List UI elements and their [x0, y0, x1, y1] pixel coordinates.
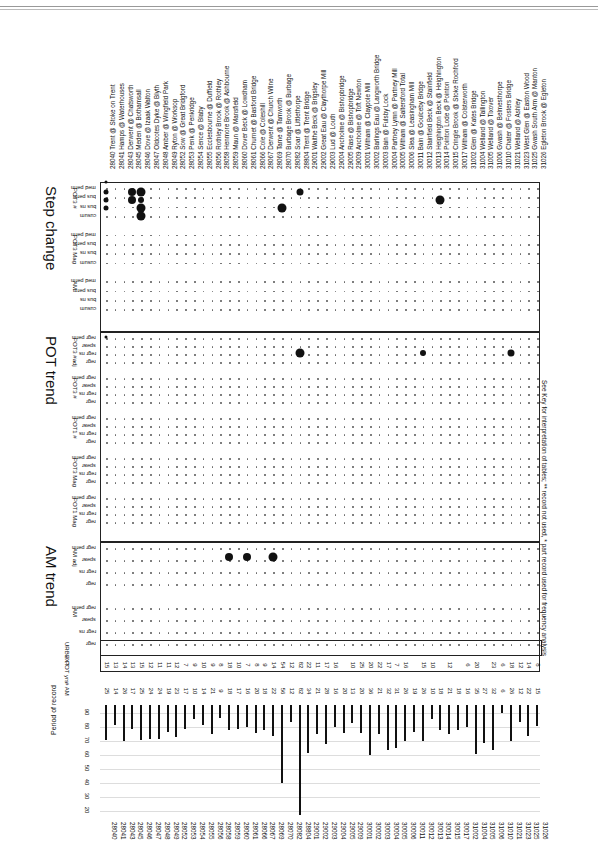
grid-dot	[317, 197, 319, 199]
grid-dot	[168, 386, 170, 388]
grid-dot	[388, 584, 390, 586]
station-label: 28067 Derwent @ Church Wilne	[260, 60, 269, 178]
grid-dot	[212, 253, 214, 255]
count-value: 20	[368, 661, 374, 670]
grid-dot	[361, 442, 363, 444]
grid-dot	[352, 244, 354, 246]
row-label: regr	[86, 519, 96, 525]
station-id: 29003	[331, 822, 338, 840]
grid-dot	[520, 522, 522, 524]
grid-dot	[537, 620, 539, 622]
grid-dot	[476, 466, 478, 468]
grid-dot	[352, 378, 354, 380]
grid-dot	[352, 354, 354, 356]
gridline	[100, 783, 540, 784]
grid-dot	[238, 548, 240, 550]
row-label: spear	[82, 557, 96, 563]
grid-dot	[141, 442, 143, 444]
grid-dot	[317, 346, 319, 348]
grid-dot	[238, 466, 240, 468]
grid-dot	[150, 620, 152, 622]
grid-dot	[185, 548, 187, 550]
grid-dot	[528, 300, 530, 302]
grid-dot	[458, 458, 460, 460]
grid-dot	[484, 338, 486, 340]
grid-dot	[414, 197, 416, 199]
grid-dot	[537, 291, 539, 293]
grid-dot	[141, 584, 143, 586]
grid-dot	[194, 300, 196, 302]
count-value: 6	[500, 661, 506, 670]
grid-dot	[168, 522, 170, 524]
grid-dot	[229, 458, 231, 460]
record-bar	[395, 705, 397, 748]
grid-dot	[326, 482, 328, 484]
grid-dot	[414, 474, 416, 476]
grid-dot	[493, 522, 495, 524]
grid-dot	[106, 216, 108, 218]
grid-dot	[273, 418, 275, 420]
grid-dot	[352, 620, 354, 622]
grid-dot	[449, 346, 451, 348]
grid-dot	[326, 346, 328, 348]
grid-dot	[194, 281, 196, 283]
grid-dot	[176, 235, 178, 237]
grid-dot	[273, 354, 275, 356]
grid-dot	[440, 216, 442, 218]
grid-dot	[220, 244, 222, 246]
grid-dot	[168, 514, 170, 516]
grid-dot	[484, 354, 486, 356]
grid-dot	[537, 263, 539, 265]
grid-dot	[132, 394, 134, 396]
grid-dot	[150, 548, 152, 550]
grid-dot	[449, 402, 451, 404]
grid-dot	[440, 572, 442, 574]
row-label: regr	[86, 399, 96, 405]
grid-dot	[449, 235, 451, 237]
station-id: 30002	[375, 822, 382, 840]
grid-dot	[150, 244, 152, 246]
grid-dot	[405, 309, 407, 311]
grid-dot	[256, 188, 258, 190]
grid-dot	[194, 386, 196, 388]
grid-dot	[405, 620, 407, 622]
station-id: 28049	[173, 822, 180, 840]
grid-dot	[520, 620, 522, 622]
grid-dot	[396, 346, 398, 348]
grid-dot	[132, 354, 134, 356]
grid-dot	[124, 442, 126, 444]
grid-dot	[220, 548, 222, 550]
grid-dot	[440, 354, 442, 356]
grid-dot	[168, 354, 170, 356]
grid-dot	[370, 188, 372, 190]
grid-dot	[352, 362, 354, 364]
grid-dot	[282, 474, 284, 476]
grid-dot	[361, 188, 363, 190]
grid-dot	[458, 572, 460, 574]
grid-dot	[308, 362, 310, 364]
grid-dot	[493, 548, 495, 550]
grid-dot	[361, 394, 363, 396]
grid-dot	[317, 514, 319, 516]
grid-dot	[502, 466, 504, 468]
station-label: 28053 Penk @ Penkridge	[181, 60, 190, 178]
grid-dot	[150, 197, 152, 199]
grid-dot	[194, 620, 196, 622]
station-id: 31025	[533, 822, 540, 840]
station-label: 31004 Welland @ Tallington	[472, 60, 481, 178]
grid-dot	[476, 506, 478, 508]
grid-dot	[212, 474, 214, 476]
grid-dot	[449, 197, 451, 199]
grid-dot	[194, 291, 196, 293]
grid-dot	[308, 426, 310, 428]
grid-dot	[352, 514, 354, 516]
grid-dot	[212, 309, 214, 311]
count-value: 20	[473, 661, 479, 670]
grid-dot	[317, 584, 319, 586]
grid-dot	[220, 632, 222, 634]
grid-dot	[432, 632, 434, 634]
period-of-record-chart: 9080706050403020	[100, 705, 540, 820]
grid-dot	[432, 188, 434, 190]
grid-dot	[124, 354, 126, 356]
count-value: 17	[385, 661, 391, 670]
